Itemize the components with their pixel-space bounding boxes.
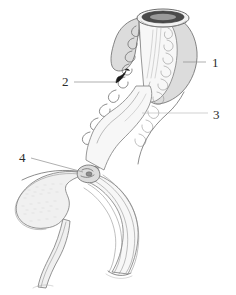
label-3: 3 [213, 107, 220, 122]
leader-line-4 [31, 158, 83, 172]
bladder-dome [16, 171, 80, 228]
urinary-bladder [15, 170, 88, 229]
vesico-uterine-junction [77, 165, 100, 183]
junction-core [86, 172, 92, 176]
cut-opening [137, 9, 189, 27]
label-2: 2 [62, 74, 69, 89]
rectum-tube [84, 167, 139, 279]
label-1: 1 [212, 55, 219, 70]
anatomical-figure: Anatomical line drawing of the female ur… [0, 0, 236, 295]
cut-opening-inner-highlight [150, 14, 176, 20]
uterus-left-lobe [111, 18, 139, 71]
urethra [33, 219, 70, 288]
figure-canvas: Anatomical line drawing of the female ur… [0, 0, 236, 295]
label-4: 4 [19, 150, 26, 165]
